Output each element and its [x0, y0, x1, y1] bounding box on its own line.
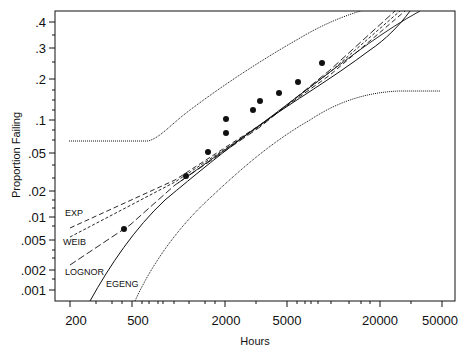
y-tick-label: .4	[35, 15, 46, 30]
y-tick-label: .001	[21, 283, 46, 298]
x-tick-label: 5000	[273, 313, 302, 328]
chart-container: .4 .3 .2 .1 .05 .02 .01 .005 .002 .001 2…	[0, 0, 467, 352]
y-tick-label: .002	[21, 263, 46, 278]
lognor-curve	[70, 11, 395, 265]
data-point	[250, 107, 256, 113]
data-point	[276, 90, 282, 96]
x-axis-ticks	[70, 301, 442, 307]
data-point	[295, 79, 301, 85]
y-tick-label: .05	[28, 146, 46, 161]
x-axis-labels: 200 500 2000 5000 20000 50000	[65, 313, 458, 328]
data-point	[205, 149, 211, 155]
y-tick-label: .02	[28, 184, 46, 199]
y-axis-ticks	[49, 22, 55, 290]
data-point	[183, 173, 189, 179]
lower-confidence-bound	[135, 91, 440, 301]
data-point	[223, 116, 229, 122]
label-exp: EXP	[65, 208, 83, 218]
x-tick-label: 200	[65, 313, 87, 328]
exp-curve	[70, 11, 405, 228]
plot-frame	[55, 11, 455, 301]
y-axis-title: Proportion Failing	[10, 112, 22, 198]
x-tick-label: 20000	[362, 313, 398, 328]
weib-curve	[70, 11, 400, 237]
egeng-curve	[90, 11, 410, 301]
y-tick-label: .005	[21, 233, 46, 248]
data-point	[121, 226, 127, 232]
x-tick-label: 500	[127, 313, 149, 328]
data-point	[319, 60, 325, 66]
x-tick-label: 2000	[212, 313, 241, 328]
y-tick-label: .2	[35, 72, 46, 87]
data-point	[223, 130, 229, 136]
label-lognor: LOGNOR	[65, 267, 105, 277]
y-axis-labels: .4 .3 .2 .1 .05 .02 .01 .005 .002 .001	[21, 15, 46, 298]
label-weib: WEIB	[63, 237, 86, 247]
x-axis-title: Hours	[240, 335, 270, 347]
y-tick-label: .3	[35, 41, 46, 56]
x-tick-label: 50000	[422, 313, 458, 328]
y-tick-label: .01	[28, 210, 46, 225]
y-tick-label: .1	[35, 113, 46, 128]
label-egeng: EGENG	[106, 279, 139, 289]
probability-plot: .4 .3 .2 .1 .05 .02 .01 .005 .002 .001 2…	[0, 0, 467, 352]
data-point	[257, 98, 263, 104]
